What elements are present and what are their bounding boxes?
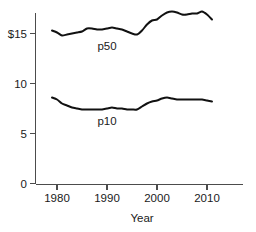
series-line-p50 bbox=[52, 11, 212, 35]
y-tick-label: 5 bbox=[21, 128, 27, 140]
series-label-p10: p10 bbox=[97, 115, 116, 127]
line-chart-plot: 0510$15 1980199020002010 p50p10 Year bbox=[0, 0, 256, 232]
y-axis-ticks: 0510$15 bbox=[8, 28, 36, 190]
x-tick-label: 1990 bbox=[94, 192, 120, 204]
x-tick-label: 2000 bbox=[144, 192, 170, 204]
x-tick-label: 2010 bbox=[194, 192, 220, 204]
series-label-p50: p50 bbox=[97, 40, 116, 52]
y-tick-label: $15 bbox=[8, 28, 27, 40]
y-tick-label: 10 bbox=[14, 78, 27, 90]
series-line-p10 bbox=[52, 98, 212, 110]
x-tick-label: 1980 bbox=[44, 192, 70, 204]
series-group bbox=[52, 11, 212, 109]
chart-container: 0510$15 1980199020002010 p50p10 Year bbox=[0, 0, 256, 232]
y-tick-label: 0 bbox=[21, 178, 27, 190]
x-axis-title: Year bbox=[130, 212, 153, 224]
series-annotations-group: p50p10 bbox=[97, 40, 116, 127]
x-axis-ticks: 1980199020002010 bbox=[44, 185, 220, 205]
